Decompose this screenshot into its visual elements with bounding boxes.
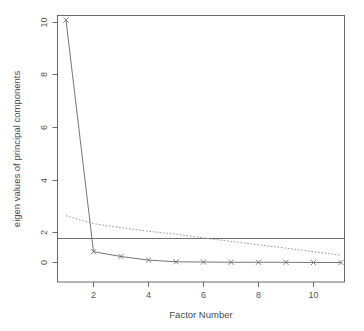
x-axis-title: Factor Number <box>169 309 232 320</box>
x-tick-label-8: 8 <box>256 290 261 300</box>
x-tick-label-4: 4 <box>146 290 151 300</box>
x-tick-label-10: 10 <box>308 290 318 300</box>
series-0 <box>63 18 343 266</box>
y-tick-label-6: 6 <box>39 125 49 130</box>
x-axis-ticks <box>94 282 314 287</box>
y-tick-label-10: 10 <box>39 17 49 27</box>
y-tick-label-8: 8 <box>39 72 49 77</box>
plot-frame <box>58 16 345 283</box>
y-axis-tick-labels: 10 8 6 4 2 0 <box>39 17 49 265</box>
y-tick-label-4: 4 <box>39 178 49 183</box>
x-tick-label-6: 6 <box>201 290 206 300</box>
x-axis-tick-labels: 2 4 6 8 10 <box>91 290 319 300</box>
chart-canvas: 10 8 6 4 2 0 2 4 6 8 10 Factor Number ei… <box>0 0 364 331</box>
y-tick-label-2: 2 <box>39 230 49 235</box>
x-tick-label-2: 2 <box>91 290 96 300</box>
y-axis-ticks <box>53 23 58 263</box>
series-line-0 <box>66 20 341 262</box>
data-layer <box>58 18 345 266</box>
series-line-1 <box>66 216 341 256</box>
y-tick-label-0: 0 <box>39 260 49 265</box>
scree-plot-figure: 10 8 6 4 2 0 2 4 6 8 10 Factor Number ei… <box>0 0 364 331</box>
y-axis-title: eigen values of principal components <box>11 71 22 228</box>
series-1 <box>66 216 341 256</box>
